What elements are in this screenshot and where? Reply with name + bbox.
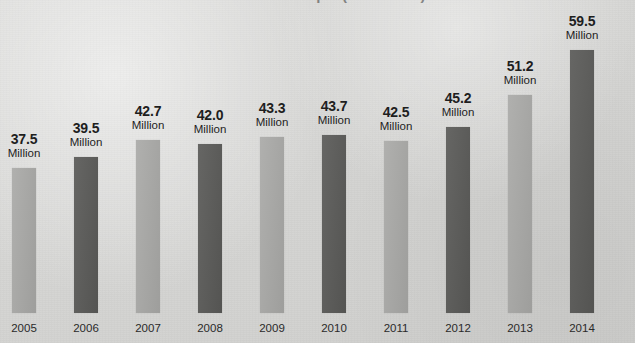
bar-value-label-2006: 39.5Million [55, 121, 117, 149]
bar-value-label-2005: 37.5Million [0, 132, 55, 160]
bar-value-number-2010: 43.7 [303, 99, 365, 114]
bar-group-2011[interactable]: 42.5Million2011 [365, 0, 427, 343]
bar-value-number-2014: 59.5 [551, 14, 613, 29]
x-axis-tick-label-2012: 2012 [427, 322, 489, 334]
bar-2008[interactable] [198, 144, 222, 313]
bar-value-number-2008: 42.0 [179, 108, 241, 123]
bar-value-number-2009: 43.3 [241, 101, 303, 116]
bar-value-label-2007: 42.7Million [117, 104, 179, 132]
bar-2013[interactable] [508, 95, 532, 313]
x-axis-tick-label-2006: 2006 [55, 322, 117, 334]
bar-value-unit-2006: Million [55, 136, 117, 148]
bar-2006[interactable] [74, 157, 98, 313]
bar-group-2014[interactable]: 59.5Million2014 [551, 0, 613, 343]
bar-2005[interactable] [12, 168, 36, 313]
x-axis-tick-label-2009: 2009 [241, 322, 303, 334]
bar-2011[interactable] [384, 141, 408, 313]
bar-2010[interactable] [322, 135, 346, 313]
bar-group-2012[interactable]: 45.2Million2012 [427, 0, 489, 343]
bar-group-2010[interactable]: 43.7Million2010 [303, 0, 365, 343]
bar-2009[interactable] [260, 137, 284, 313]
bar-value-unit-2009: Million [241, 116, 303, 128]
bar-chart-figure: Number of People (in Millions) 37.5Milli… [0, 0, 635, 343]
bar-group-2013[interactable]: 51.2Million2013 [489, 0, 551, 343]
bar-value-label-2008: 42.0Million [179, 108, 241, 136]
bar-value-unit-2011: Million [365, 120, 427, 132]
bar-value-number-2011: 42.5 [365, 105, 427, 120]
bar-group-2009[interactable]: 43.3Million2009 [241, 0, 303, 343]
bar-value-number-2005: 37.5 [0, 132, 55, 147]
bar-value-label-2009: 43.3Million [241, 101, 303, 129]
bar-value-unit-2005: Million [0, 147, 55, 159]
bar-value-number-2012: 45.2 [427, 91, 489, 106]
x-axis-tick-label-2011: 2011 [365, 322, 427, 334]
x-axis-tick-label-2010: 2010 [303, 322, 365, 334]
bar-value-label-2013: 51.2Million [489, 59, 551, 87]
bar-2014[interactable] [570, 50, 594, 313]
bar-2007[interactable] [136, 140, 160, 313]
bar-value-label-2012: 45.2Million [427, 91, 489, 119]
bar-value-unit-2008: Million [179, 123, 241, 135]
x-axis-tick-label-2005: 2005 [0, 322, 55, 334]
bar-value-label-2010: 43.7Million [303, 99, 365, 127]
bar-value-number-2007: 42.7 [117, 104, 179, 119]
bar-value-unit-2010: Million [303, 114, 365, 126]
plot-area: 37.5Million200539.5Million200642.7Millio… [0, 0, 635, 343]
x-axis-tick-label-2008: 2008 [179, 322, 241, 334]
x-axis-tick-label-2007: 2007 [117, 322, 179, 334]
bar-value-number-2013: 51.2 [489, 59, 551, 74]
bar-value-number-2006: 39.5 [55, 121, 117, 136]
bar-group-2007[interactable]: 42.7Million2007 [117, 0, 179, 343]
x-axis-tick-label-2013: 2013 [489, 322, 551, 334]
bar-2012[interactable] [446, 127, 470, 313]
bar-group-2008[interactable]: 42.0Million2008 [179, 0, 241, 343]
bar-value-label-2014: 59.5Million [551, 14, 613, 42]
x-axis-tick-label-2014: 2014 [551, 322, 613, 334]
bar-value-unit-2014: Million [551, 29, 613, 41]
bar-value-unit-2007: Million [117, 119, 179, 131]
bar-group-2005[interactable]: 37.5Million2005 [0, 0, 55, 343]
bar-value-unit-2012: Million [427, 106, 489, 118]
bar-value-unit-2013: Million [489, 74, 551, 86]
bar-value-label-2011: 42.5Million [365, 105, 427, 133]
bar-group-2006[interactable]: 39.5Million2006 [55, 0, 117, 343]
